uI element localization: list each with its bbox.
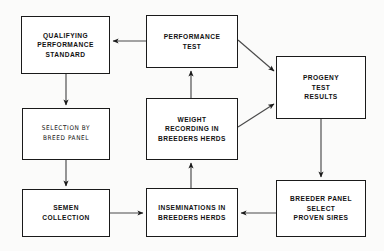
node-line: STANDARD [45,50,85,60]
flowchart-diagram: QUALIFYING PERFORMANCE STANDARD PERFORMA… [0,0,384,251]
node-weight-recording-breeders-herds: WEIGHT RECORDING IN BREEDERS HERDS [146,98,238,160]
edge-weight-recording-to-progeny-results [238,104,274,127]
node-line: PROGENY [303,73,339,83]
node-line: QUALIFYING [43,31,88,41]
node-line: BREEDER PANEL [290,194,352,204]
node-inseminations-breeders-herds: INSEMINATIONS IN BREEDERS HERDS [146,188,238,237]
node-selection-by-breed-panel: SELECTION BY BREED PANEL [22,108,110,160]
node-line: BREED PANEL [43,134,89,144]
node-line: BREEDERS HERDS [158,213,226,223]
node-line: PERFORMANCE [164,32,221,42]
node-line: BREEDERS HERDS [158,134,226,144]
node-progeny-test-results: PROGENY TEST RESULTS [276,56,366,119]
node-line: RESULTS [304,92,337,102]
node-line: PROVEN SIRES [294,213,349,223]
node-line: COLLECTION [42,213,89,223]
node-line: WEIGHT [177,115,206,125]
node-breeder-panel-select-proven-sires: BREEDER PANEL SELECT PROVEN SIRES [276,180,366,237]
node-line: TEST [312,83,331,93]
edge-performance-test-to-progeny-results [238,40,274,71]
node-performance-test: PERFORMANCE TEST [146,15,238,68]
node-line: SELECT [307,204,336,214]
node-line: INSEMINATIONS IN [158,203,226,213]
node-qualifying-performance-standard: QUALIFYING PERFORMANCE STANDARD [21,16,110,74]
node-line: SEMEN [53,203,79,213]
node-line: TEST [183,42,202,52]
node-line: RECORDING IN [165,124,219,134]
node-line: PERFORMANCE [37,40,94,50]
node-semen-collection: SEMEN COLLECTION [22,189,110,237]
node-line: SELECTION BY [42,124,90,134]
